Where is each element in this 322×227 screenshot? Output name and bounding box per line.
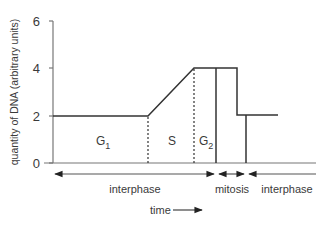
period-label-mitosis: mitosis (215, 183, 250, 195)
phase-label-g1: G1 (96, 134, 110, 151)
dna-quantity-line (53, 68, 278, 116)
phase-label-s: S (168, 134, 176, 148)
tick-6: 6 (33, 14, 40, 29)
phase-label-g2: G2 (199, 134, 213, 151)
y-axis (49, 21, 53, 163)
period-label-interphase-2: interphase (261, 183, 312, 195)
tick-2: 2 (33, 109, 40, 124)
dna-cell-cycle-diagram: 6 4 2 0 quantity of DNA (arbitrary units… (0, 0, 322, 227)
tick-4: 4 (33, 61, 40, 76)
tick-0: 0 (33, 156, 40, 171)
x-axis-label: time (150, 204, 171, 216)
period-label-interphase-1: interphase (109, 183, 160, 195)
y-axis-label: quantity of DNA (arbitrary units) (8, 19, 20, 165)
